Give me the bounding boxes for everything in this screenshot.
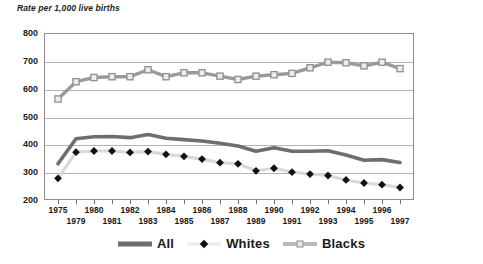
x-axis-tick-label: 1992 <box>301 205 320 215</box>
data-point-marker <box>361 63 367 69</box>
x-axis-tick-label: 1996 <box>373 205 392 215</box>
x-axis-tick-label: 1982 <box>121 205 140 215</box>
data-point-marker <box>216 159 224 167</box>
data-point-marker <box>180 152 188 160</box>
data-point-marker <box>378 181 386 189</box>
x-axis-tick-label: 1983 <box>139 216 158 226</box>
x-axis-tick-label: 1979 <box>67 216 86 226</box>
data-point-marker <box>163 74 169 80</box>
data-point-marker <box>325 59 331 65</box>
y-axis-tick-label: 300 <box>23 167 38 177</box>
data-series-layer <box>44 33 414 200</box>
data-point-marker <box>307 65 313 71</box>
data-point-marker <box>342 176 350 184</box>
chart-container: Rate per 1,000 live births 2003004005006… <box>0 0 483 264</box>
x-axis-tick-label: 1989 <box>247 216 266 226</box>
data-point-marker <box>379 59 385 65</box>
x-axis-tick-label: 1984 <box>157 205 176 215</box>
series-all <box>58 135 400 164</box>
y-axis-tick-label: 500 <box>23 112 38 122</box>
data-point-marker <box>109 74 115 80</box>
data-point-marker <box>396 184 404 192</box>
y-axis-tick-label: 700 <box>23 56 38 66</box>
data-point-marker <box>217 73 223 79</box>
data-point-marker <box>288 168 296 176</box>
legend-label-blacks: Blacks <box>322 236 365 251</box>
data-point-marker <box>235 76 241 82</box>
y-axis-tick-label: 800 <box>23 28 38 38</box>
data-point-marker <box>126 149 134 157</box>
series-line <box>58 135 400 164</box>
legend-swatch-all-line-icon <box>118 238 152 250</box>
data-point-marker <box>108 147 116 155</box>
legend-item-blacks[interactable]: Blacks <box>283 236 365 251</box>
x-axis-tick-label: 1991 <box>283 216 302 226</box>
data-point-marker <box>253 73 259 79</box>
data-point-marker <box>324 172 332 180</box>
data-point-marker <box>144 148 152 156</box>
data-point-marker <box>73 79 79 85</box>
x-axis-tick-label: 1997 <box>391 216 410 226</box>
x-axis-tick-label: 1988 <box>229 205 248 215</box>
chart-legend: All Whites Blacks <box>0 236 483 251</box>
x-axis-tick-label: 1994 <box>337 205 356 215</box>
x-axis-tick-label: 1990 <box>265 205 284 215</box>
data-point-marker <box>343 60 349 66</box>
data-point-marker <box>145 67 151 73</box>
x-axis-tick-label: 1985 <box>175 216 194 226</box>
x-axis-tick-label: 1975 <box>49 205 68 215</box>
series-whites <box>54 147 404 191</box>
series-blacks <box>55 59 403 102</box>
legend-label-whites: Whites <box>226 236 270 251</box>
x-axis-tick-label: 1980 <box>85 205 104 215</box>
legend-item-whites[interactable]: Whites <box>187 236 270 251</box>
data-point-marker <box>55 96 61 102</box>
x-axis-labels: 1975198019821984198619881990199219941996… <box>0 203 483 229</box>
data-point-marker <box>91 74 97 80</box>
x-axis-tick-label: 1993 <box>319 216 338 226</box>
y-axis-tick-label: 400 <box>23 139 38 149</box>
data-point-marker <box>127 74 133 80</box>
data-point-marker <box>181 70 187 76</box>
data-point-marker <box>270 164 278 172</box>
series-line <box>58 62 400 99</box>
legend-swatch-blacks-square-icon <box>283 238 317 250</box>
x-axis-tick-label: 1986 <box>193 205 212 215</box>
data-point-marker <box>306 170 314 178</box>
data-point-marker <box>199 70 205 76</box>
data-point-marker <box>198 155 206 163</box>
x-axis-tick-label: 1987 <box>211 216 230 226</box>
legend-label-all: All <box>157 236 174 251</box>
data-point-marker <box>162 150 170 158</box>
data-point-marker <box>90 147 98 155</box>
x-axis-tick-label: 1981 <box>103 216 122 226</box>
data-point-marker <box>271 72 277 78</box>
legend-swatch-whites-diamond-icon <box>187 238 221 250</box>
data-point-marker <box>289 70 295 76</box>
legend-item-all[interactable]: All <box>118 236 174 251</box>
data-point-marker <box>397 66 403 72</box>
x-axis-tick-label: 1995 <box>355 216 374 226</box>
data-point-marker <box>360 179 368 187</box>
y-axis-tick-label: 600 <box>23 84 38 94</box>
